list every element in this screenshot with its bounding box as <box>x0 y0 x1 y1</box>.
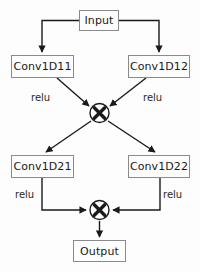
node-conv1d11-label: Conv1D11 <box>13 61 71 72</box>
edge-input-to-conv1d11 <box>42 21 79 53</box>
diagram-connectors <box>0 0 200 272</box>
node-input-label: Input <box>85 15 114 26</box>
node-conv1d22[interactable]: Conv1D22 <box>128 155 190 178</box>
node-conv1d21[interactable]: Conv1D21 <box>11 155 74 178</box>
node-input[interactable]: Input <box>79 10 119 31</box>
edge-label-relu-conv1d21: relu <box>15 190 34 200</box>
edge-conv1d12-to-multiply-top <box>110 78 146 106</box>
edge-input-to-conv1d12 <box>119 21 159 53</box>
edge-conv1d11-to-multiply-top <box>57 78 89 106</box>
edge-conv1d21-to-multiply-bottom <box>42 178 86 210</box>
node-output[interactable]: Output <box>73 240 126 262</box>
edge-label-relu-conv1d12: relu <box>143 93 162 103</box>
edge-multiply-top-to-conv1d21 <box>46 121 91 152</box>
node-output-label: Output <box>80 246 119 257</box>
diagram-canvas: Input Conv1D11 Conv1D12 Conv1D21 Conv1D2… <box>0 0 200 272</box>
node-conv1d12-label: Conv1D12 <box>130 61 188 72</box>
node-conv1d12[interactable]: Conv1D12 <box>128 55 190 78</box>
edge-multiply-top-to-conv1d22 <box>108 121 155 152</box>
multiply-circle-icon-bottom <box>90 201 109 220</box>
multiply-circle-icon-top <box>90 104 109 123</box>
node-conv1d21-label: Conv1D21 <box>13 161 71 172</box>
node-conv1d11[interactable]: Conv1D11 <box>11 55 74 78</box>
edge-conv1d22-to-multiply-bottom <box>113 178 160 210</box>
edge-label-relu-conv1d22: relu <box>163 190 182 200</box>
edge-label-relu-conv1d11: relu <box>31 93 50 103</box>
node-conv1d22-label: Conv1D22 <box>130 161 188 172</box>
